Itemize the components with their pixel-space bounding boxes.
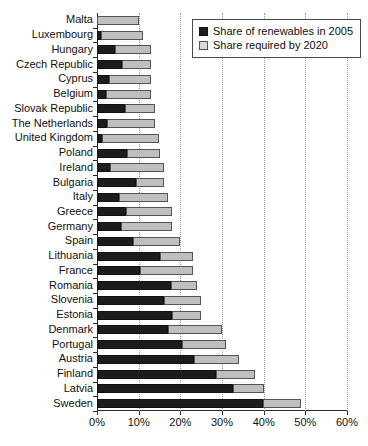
legend-label-2020: Share required by 2020 — [213, 39, 328, 51]
category-label-lithuania: Lithuania — [48, 250, 93, 261]
bar-row — [97, 367, 347, 382]
bar-segment-2020 — [182, 340, 226, 349]
category-label-poland: Poland — [59, 147, 93, 158]
category-label-czech-republic: Czech Republic — [16, 59, 93, 70]
stacked-bar — [97, 340, 226, 349]
bar-segment-2020 — [171, 281, 197, 290]
bar-segment-2020 — [106, 90, 151, 99]
value-axis-labels: 0%10%20%30%40%50%60% — [0, 414, 368, 430]
category-label-finland: Finland — [57, 368, 93, 379]
bar-row — [97, 57, 347, 72]
stacked-bar — [97, 252, 193, 261]
bar-segment-2020 — [172, 311, 201, 320]
legend-entry-2005: Share of renewables in 2005 — [199, 24, 353, 38]
category-axis-labels: MaltaLuxembourgHungaryCzech RepublicCypr… — [0, 13, 93, 411]
x-label-50: 50% — [294, 416, 316, 428]
bar-segment-2020 — [102, 134, 159, 143]
bar-segment-2020 — [216, 370, 256, 379]
bar-segment-2005 — [97, 60, 122, 69]
bar-row — [97, 131, 347, 146]
category-label-belgium: Belgium — [53, 88, 93, 99]
bar-segment-2020 — [110, 163, 164, 172]
bar-segment-2005 — [97, 104, 125, 113]
bar-segment-2005 — [97, 222, 121, 231]
bar-segment-2020 — [121, 222, 172, 231]
bar-segment-2005 — [97, 252, 160, 261]
x-label-0: 0% — [89, 416, 105, 428]
x-label-30: 30% — [211, 416, 233, 428]
stacked-bar — [97, 119, 155, 128]
bar-segment-2020 — [233, 384, 264, 393]
category-label-germany: Germany — [48, 221, 93, 232]
bar-segment-2020 — [140, 266, 193, 275]
bar-segment-2005 — [97, 163, 110, 172]
stacked-bar — [97, 325, 222, 334]
bar-segment-2005 — [97, 178, 136, 187]
bar-segment-2005 — [97, 340, 182, 349]
stacked-bar — [97, 384, 264, 393]
x-label-20: 20% — [169, 416, 191, 428]
bar-segment-2005 — [97, 119, 107, 128]
stacked-bar — [97, 222, 172, 231]
bar-row — [97, 219, 347, 234]
stacked-bar — [97, 281, 197, 290]
category-label-france: France — [59, 265, 93, 276]
bar-segment-2020 — [194, 355, 239, 364]
bar-row — [97, 264, 347, 279]
category-label-hungary: Hungary — [51, 44, 93, 55]
category-label-latvia: Latvia — [64, 383, 93, 394]
bar-segment-2005 — [97, 207, 126, 216]
chart-legend: Share of renewables in 2005 Share requir… — [192, 19, 361, 58]
bar-segment-2020 — [97, 16, 139, 25]
bar-segment-2005 — [97, 237, 133, 246]
bar-segment-2020 — [160, 252, 193, 261]
category-label-malta: Malta — [66, 14, 93, 25]
bar-segment-2005 — [97, 266, 140, 275]
category-label-luxembourg: Luxembourg — [32, 29, 93, 40]
category-label-bulgaria: Bulgaria — [53, 177, 93, 188]
bar-segment-2020 — [101, 31, 143, 40]
category-label-united-kingdom: United Kingdom — [15, 132, 93, 143]
stacked-bar — [97, 16, 139, 25]
category-label-ireland: Ireland — [59, 162, 93, 173]
bar-segment-2020 — [263, 399, 301, 408]
stacked-bar — [97, 75, 151, 84]
bar-segment-2005 — [97, 370, 216, 379]
gridline-60 — [347, 13, 348, 411]
renewables-share-bar-chart: MaltaLuxembourgHungaryCzech RepublicCypr… — [0, 0, 368, 446]
stacked-bar — [97, 178, 164, 187]
bar-segment-2020 — [119, 193, 168, 202]
bar-rows — [97, 13, 347, 411]
category-label-italy: Italy — [73, 191, 93, 202]
category-label-slovak-republic: Slovak Republic — [14, 103, 93, 114]
category-label-spain: Spain — [65, 235, 93, 246]
bar-row — [97, 146, 347, 161]
bar-segment-2005 — [97, 325, 168, 334]
stacked-bar — [97, 31, 143, 40]
stacked-bar — [97, 296, 201, 305]
bar-segment-2005 — [97, 399, 263, 408]
stacked-bar — [97, 149, 160, 158]
stacked-bar — [97, 193, 168, 202]
bar-segment-2020 — [168, 325, 222, 334]
bar-segment-2020 — [115, 45, 151, 54]
bar-row — [97, 190, 347, 205]
category-label-denmark: Denmark — [48, 324, 93, 335]
category-label-estonia: Estonia — [56, 309, 93, 320]
bar-segment-2005 — [97, 281, 171, 290]
stacked-bar — [97, 399, 301, 408]
x-label-10: 10% — [128, 416, 150, 428]
category-label-the-netherlands: The Netherlands — [12, 118, 93, 129]
stacked-bar — [97, 134, 159, 143]
bar-segment-2020 — [127, 149, 160, 158]
bar-segment-2020 — [136, 178, 164, 187]
bar-segment-2020 — [125, 104, 155, 113]
stacked-bar — [97, 90, 151, 99]
bar-row — [97, 72, 347, 87]
category-label-portugal: Portugal — [52, 339, 93, 350]
stacked-bar — [97, 163, 164, 172]
bar-segment-2005 — [97, 311, 172, 320]
bar-segment-2020 — [126, 207, 172, 216]
bar-row — [97, 205, 347, 220]
bar-segment-2005 — [97, 355, 194, 364]
